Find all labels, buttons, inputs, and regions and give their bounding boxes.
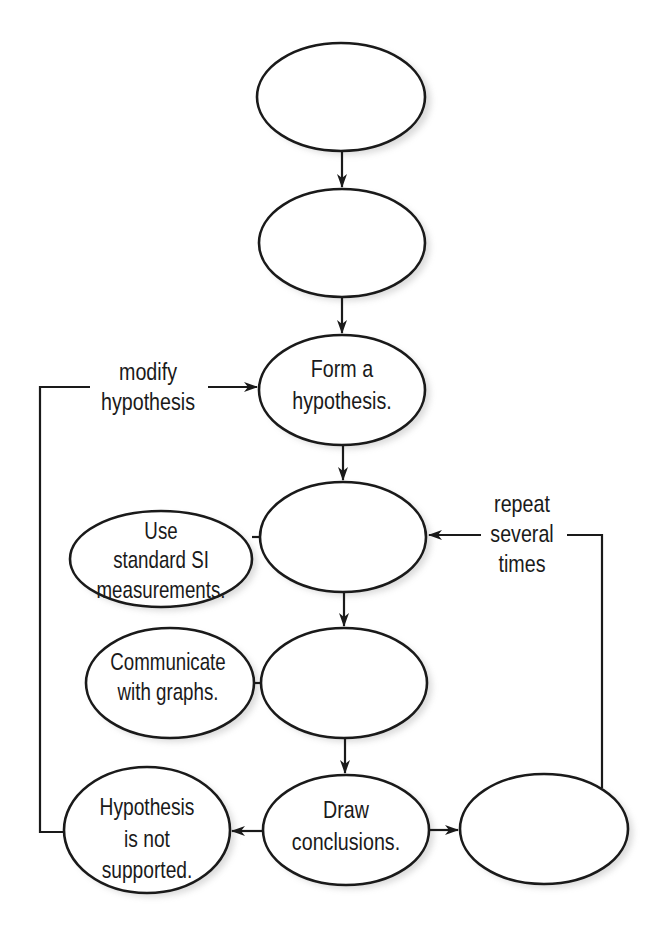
draw-conclusions-line-1: Draw [323, 796, 369, 823]
flowchart-canvas: Form a hypothesis. Draw conclusions. Use… [0, 0, 653, 928]
node-step-4-blank[interactable] [260, 482, 426, 592]
communicate-line-2: with graphs. [117, 679, 219, 706]
draw-conclusions-line-2: conclusions. [292, 828, 400, 855]
form-hypothesis-line-1: Form a [311, 355, 374, 382]
use-si-line-3: measurements. [97, 577, 226, 604]
modify-label-line-1: modify [119, 358, 177, 385]
repeat-label-line-3: times [498, 550, 545, 577]
edge-repeat-loop [567, 535, 602, 788]
modify-label-line-2: hypothesis [101, 388, 195, 415]
repeat-label-line-2: several [490, 520, 553, 547]
not-supported-line-3: supported. [102, 856, 193, 884]
node-step-5-blank[interactable] [261, 628, 427, 738]
node-step-7-blank[interactable] [460, 774, 628, 884]
node-step-2-blank[interactable] [259, 189, 425, 297]
edge-modify-loop [40, 387, 90, 832]
use-si-line-1: Use [144, 518, 177, 545]
communicate-line-1: Communicate [110, 649, 225, 676]
use-si-line-2: standard SI [113, 547, 209, 574]
form-hypothesis-line-2: hypothesis. [292, 387, 392, 414]
not-supported-line-2: is not [124, 825, 170, 853]
node-step-1-blank[interactable] [257, 43, 425, 151]
repeat-label-line-1: repeat [494, 490, 550, 517]
not-supported-line-1: Hypothesis [100, 793, 195, 821]
